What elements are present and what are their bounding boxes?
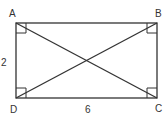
side-label-ad: 2 bbox=[1, 57, 7, 68]
vertex-label-c: C bbox=[155, 103, 162, 114]
side-label-dc: 6 bbox=[85, 104, 91, 115]
rectangle-diagram: A B C D 2 6 bbox=[0, 0, 166, 115]
vertex-label-b: B bbox=[155, 8, 162, 19]
vertex-label-d: D bbox=[10, 104, 17, 115]
vertex-label-a: A bbox=[9, 8, 16, 19]
